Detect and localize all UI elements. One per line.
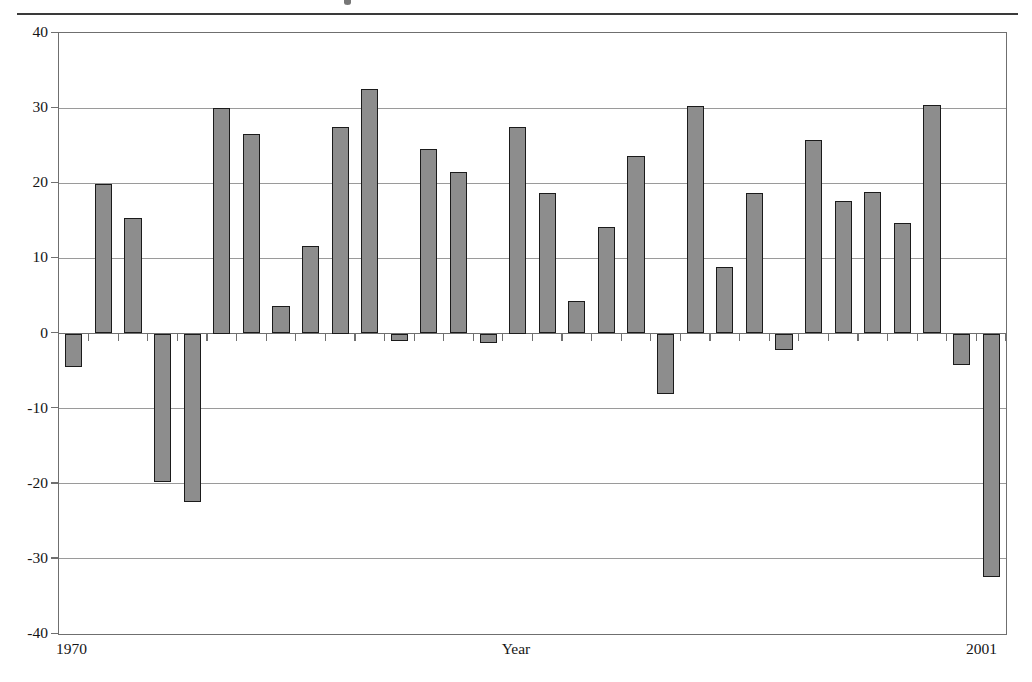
bar <box>835 201 852 334</box>
gridline <box>59 183 1006 184</box>
bar <box>302 246 319 333</box>
bar <box>923 105 940 333</box>
x-axis-tick <box>739 334 740 341</box>
y-axis-tick-label: -40 <box>4 625 48 641</box>
chart-page: 403020100-10-20-30-40 1970 Year 2001 <box>0 0 1032 682</box>
bar <box>983 334 1000 577</box>
bar <box>894 223 911 333</box>
x-axis-tick <box>946 334 947 341</box>
bar <box>539 193 556 333</box>
bar <box>391 334 408 342</box>
x-axis-tick <box>502 334 503 341</box>
x-axis-tick <box>206 334 207 341</box>
bar <box>213 108 230 333</box>
bar <box>361 89 378 334</box>
y-axis-tick <box>51 633 58 634</box>
x-axis-tick <box>887 334 888 341</box>
bar <box>805 140 822 334</box>
x-axis-tick <box>88 334 89 341</box>
bar <box>480 334 497 343</box>
bar <box>687 106 704 334</box>
bar <box>509 127 526 334</box>
x-axis-tick <box>384 334 385 341</box>
x-axis-tick <box>443 334 444 341</box>
bar <box>272 306 289 333</box>
x-axis-tick <box>680 334 681 341</box>
x-axis-tick <box>1005 334 1006 341</box>
x-axis-tick <box>295 334 296 341</box>
bar <box>243 134 260 333</box>
y-axis-tick <box>51 32 58 33</box>
bar <box>568 301 585 333</box>
bar <box>154 334 171 483</box>
y-axis-tick-label: 40 <box>4 24 48 40</box>
bar <box>332 127 349 334</box>
x-axis-tick <box>266 334 267 341</box>
plot-area <box>58 32 1007 635</box>
y-axis-tick <box>51 107 58 108</box>
x-axis-tick <box>414 334 415 341</box>
y-axis-tick-label: -30 <box>4 550 48 566</box>
bar <box>953 334 970 366</box>
gridline <box>59 483 1006 484</box>
bar <box>65 334 82 368</box>
x-axis-tick <box>354 334 355 341</box>
bar <box>124 218 141 334</box>
x-axis-title: Year <box>0 641 1032 657</box>
y-axis-tick <box>51 407 58 408</box>
x-axis-tick <box>857 334 858 341</box>
gridline <box>59 108 1006 109</box>
x-axis-tick <box>473 334 474 341</box>
x-axis-tick <box>147 334 148 341</box>
bar <box>95 184 112 333</box>
y-axis-tick-label: -10 <box>4 400 48 416</box>
bar <box>420 149 437 334</box>
y-axis-tick <box>51 557 58 558</box>
bar <box>746 193 763 333</box>
x-axis-tick <box>798 334 799 341</box>
bar <box>598 227 615 334</box>
x-axis-tick <box>976 334 977 341</box>
bar <box>450 172 467 334</box>
x-axis-tick <box>325 334 326 341</box>
x-axis-tick <box>561 334 562 341</box>
x-axis-tick <box>621 334 622 341</box>
bar <box>864 192 881 333</box>
y-axis-tick <box>51 482 58 483</box>
x-axis-tick <box>650 334 651 341</box>
x-axis-tick <box>709 334 710 341</box>
y-axis-tick <box>51 257 58 258</box>
y-axis-tick <box>51 332 58 333</box>
bar <box>716 267 733 333</box>
y-axis-tick-label: 10 <box>4 249 48 265</box>
x-axis-tick <box>236 334 237 341</box>
y-axis-tick-label: 0 <box>4 325 48 341</box>
x-axis-tick <box>118 334 119 341</box>
x-axis-tick <box>769 334 770 341</box>
x-axis-end-label: 2001 <box>966 641 997 657</box>
y-axis-tick-label: 20 <box>4 174 48 190</box>
cut-off-caption-glyph <box>344 0 351 5</box>
page-top-rule <box>17 13 1018 15</box>
y-axis-tick-label: -20 <box>4 475 48 491</box>
bar <box>775 334 792 351</box>
x-axis-tick <box>917 334 918 341</box>
gridline <box>59 558 1006 559</box>
x-axis-tick <box>591 334 592 341</box>
bar <box>627 156 644 333</box>
bar <box>184 334 201 502</box>
y-axis-tick <box>51 182 58 183</box>
gridline <box>59 408 1006 409</box>
x-axis-tick <box>532 334 533 341</box>
x-axis-tick <box>177 334 178 341</box>
x-axis-tick <box>828 334 829 341</box>
bar <box>657 334 674 394</box>
y-axis-tick-label: 30 <box>4 99 48 115</box>
